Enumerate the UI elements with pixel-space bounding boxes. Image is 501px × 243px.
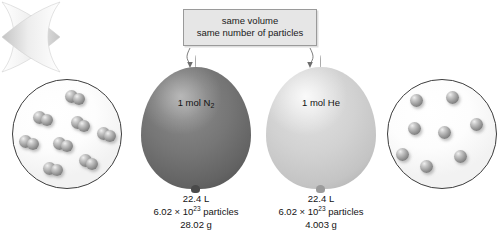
particles-exponent: 23 (193, 205, 200, 212)
particles-mantissa: 6.02 × 10 (278, 206, 318, 217)
balloon-helium: 1 mol He (266, 55, 376, 195)
particles-mantissa: 6.02 × 10 (153, 206, 193, 217)
callout-box: same volume same number of particles (183, 9, 317, 46)
caption-volume: 22.4 L (246, 192, 396, 205)
caption-particles: 6.02 × 1023 particles (246, 205, 396, 218)
balloon-label-helium: 1 mol He (266, 97, 376, 109)
balloon-label-subscript: 2 (210, 102, 214, 109)
balloon-body (266, 67, 376, 189)
balloon-label-text: 1 mol He (302, 97, 340, 108)
balloon-label-text: 1 mol N (178, 97, 211, 108)
particles-unit: particles (201, 206, 239, 217)
particles-unit: particles (326, 206, 364, 217)
caption-mass: 4.003 g (246, 218, 396, 231)
balloon-nitrogen: 1 mol N2 (141, 55, 251, 195)
balloon-label-nitrogen: 1 mol N2 (141, 97, 251, 109)
molar-volume-diagram: same volume same number of particles (0, 0, 501, 243)
caption-helium: 22.4 L 6.02 × 1023 particles 4.003 g (246, 192, 396, 231)
balloon-body (141, 67, 251, 189)
particles-exponent: 23 (318, 205, 325, 212)
callout-line-2: same number of particles (190, 27, 310, 39)
magnifier-cone-right (0, 0, 62, 74)
callout-line-1: same volume (190, 15, 310, 27)
magnifier-circle-helium (387, 79, 497, 189)
magnifier-circle-nitrogen (12, 79, 122, 189)
